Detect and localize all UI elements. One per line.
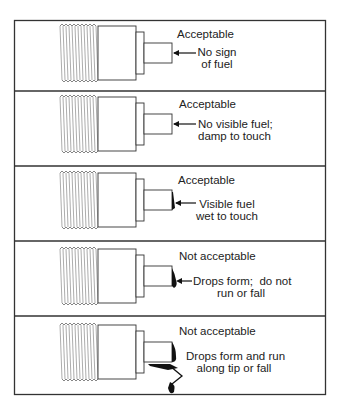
status-label: Acceptable (178, 174, 235, 186)
fitting-panel-3 (60, 171, 196, 229)
diagram-drawing (0, 0, 342, 405)
description-label: Visible fuel wet to touch (192, 198, 262, 222)
description-label: Drops form; do not run or fall (193, 275, 289, 299)
description-label: No sign of fuel (197, 46, 237, 70)
status-label: Acceptable (179, 98, 236, 110)
fitting-panel-1 (60, 24, 196, 82)
fitting-panel-2 (60, 95, 196, 153)
fitting-panel-4 (60, 247, 192, 305)
fitting-panel-5 (60, 323, 182, 393)
description-label: Drops form and run along tip or fall (186, 350, 282, 374)
status-label: Acceptable (177, 28, 234, 40)
fuel-leak-diagram: Acceptable No sign of fuel Acceptable No… (0, 0, 342, 405)
status-label: Not acceptable (179, 250, 256, 262)
description-label: No visible fuel; damp to touch (198, 118, 273, 142)
status-label: Not acceptable (179, 325, 256, 337)
